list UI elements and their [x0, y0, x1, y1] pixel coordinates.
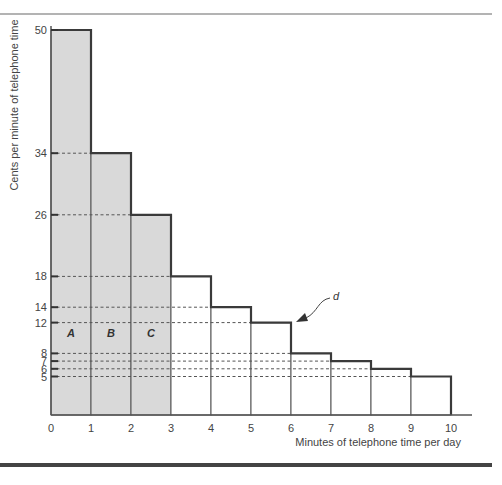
bars — [51, 30, 451, 415]
x-tick-label: 0 — [48, 422, 54, 434]
x-tick-label: 7 — [328, 422, 334, 434]
bar — [291, 353, 331, 415]
annotation-d: d — [296, 290, 340, 322]
x-tick-label: 6 — [288, 422, 294, 434]
bar — [171, 276, 211, 415]
step-chart: 5034261814128765 012345678910 ABC Cents … — [0, 0, 502, 485]
x-axis-label: Minutes of telephone time per day — [295, 436, 461, 448]
x-tick-label: 10 — [445, 422, 457, 434]
region-label-a: A — [66, 327, 75, 339]
bar — [131, 215, 171, 415]
bar — [51, 30, 91, 415]
x-tick-label: 8 — [368, 422, 374, 434]
bar — [371, 369, 411, 415]
annotation-label: d — [333, 290, 340, 302]
x-tick-label: 2 — [128, 422, 134, 434]
bar — [411, 377, 451, 416]
x-tick-label: 5 — [248, 422, 254, 434]
y-tick-label: 12 — [35, 317, 47, 329]
y-tick-label: 5 — [41, 371, 47, 383]
x-tick-label: 1 — [88, 422, 94, 434]
y-tick-label: 26 — [35, 209, 47, 221]
x-tick-label: 4 — [208, 422, 214, 434]
y-tick-label: 34 — [35, 147, 47, 159]
arrow-head-icon — [296, 313, 308, 322]
y-axis-label: Cents per minute of telephone time — [8, 19, 20, 190]
y-tick-label: 14 — [35, 301, 47, 313]
x-tick-label: 9 — [408, 422, 414, 434]
y-tick-label: 18 — [35, 270, 47, 282]
region-label-c: C — [147, 327, 156, 339]
arrow-curve — [306, 298, 330, 318]
bar — [91, 153, 131, 415]
x-tick-label: 3 — [168, 422, 174, 434]
region-label-b: B — [107, 327, 115, 339]
y-tick-label: 50 — [35, 24, 47, 36]
x-ticks: 012345678910 — [48, 422, 457, 434]
